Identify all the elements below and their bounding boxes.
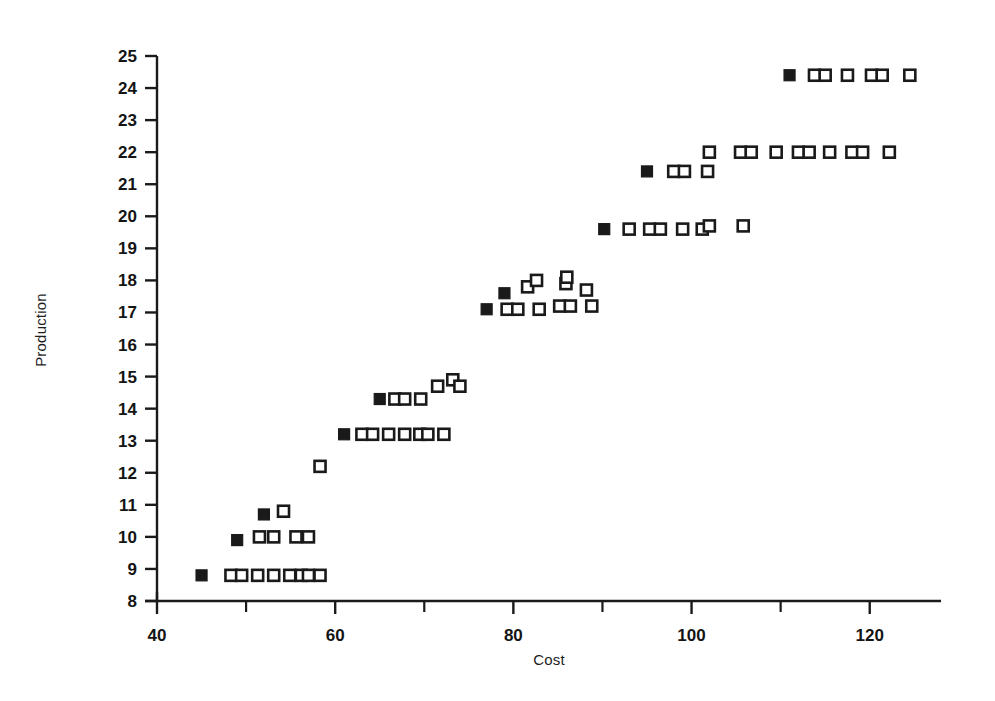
data-point-open [884,147,895,158]
data-point-open [655,224,666,235]
y-tick-label: 21 [118,175,137,194]
y-tick-label: 9 [128,560,137,579]
y-tick-label: 11 [119,496,137,515]
x-axis-tick-labels: 406080100120 [148,626,884,645]
data-point-open [454,381,465,392]
data-point-open [303,531,314,542]
y-tick-label: 19 [118,239,137,258]
y-tick-label: 14 [118,400,137,419]
data-point-filled [642,166,653,177]
data-point-open [290,531,301,542]
data-point-open [303,570,314,581]
x-axis-ticks [157,592,870,614]
data-point-filled [481,304,492,315]
data-point-open [793,147,804,158]
data-point-open [904,70,915,81]
y-axis-tick-labels: 8910111213141516171819202122232425 [118,47,137,611]
y-tick-label: 16 [118,336,137,355]
data-point-open [254,531,265,542]
data-point-open [624,224,635,235]
y-tick-label: 8 [128,592,137,611]
data-point-open [432,381,443,392]
data-points-open-square [225,70,915,581]
data-point-open [236,570,247,581]
y-tick-label: 12 [118,464,137,483]
y-axis-ticks [145,56,157,601]
data-point-open [581,285,592,296]
data-point-open [735,147,746,158]
data-point-open [367,429,378,440]
data-point-open [668,166,679,177]
data-point-open [278,506,289,517]
data-point-open [561,272,572,283]
data-point-filled [196,570,207,581]
data-point-open [824,147,835,158]
data-point-open [399,429,410,440]
y-axis-label: Production [32,293,49,367]
data-point-open [502,304,513,315]
data-point-open [284,570,295,581]
data-point-open [809,70,820,81]
y-tick-label: 22 [118,143,137,162]
data-point-open [225,570,236,581]
y-tick-label: 17 [118,303,137,322]
data-point-open [738,220,749,231]
data-point-open [644,224,655,235]
data-point-open [877,70,888,81]
data-point-filled [374,394,385,405]
data-point-filled [339,429,350,440]
data-point-open [586,301,597,312]
data-point-open [771,147,782,158]
data-point-open [857,147,868,158]
data-point-open [512,304,523,315]
data-point-open [415,394,426,405]
data-point-open [315,570,326,581]
data-point-open [438,429,449,440]
data-point-open [704,147,715,158]
y-tick-label: 25 [118,47,137,66]
data-point-open [422,429,433,440]
data-point-open [804,147,815,158]
data-point-open [679,166,690,177]
scatter-chart-figure: 8910111213141516171819202122232425 40608… [0,0,995,701]
scatter-plot-svg: 8910111213141516171819202122232425 40608… [0,0,995,701]
x-tick-label: 100 [677,626,705,645]
data-point-open [315,461,326,472]
data-point-open [746,147,757,158]
data-point-filled [232,535,243,546]
data-point-open [252,570,263,581]
y-tick-label: 15 [118,368,137,387]
x-tick-label: 60 [326,626,345,645]
data-point-open [356,429,367,440]
data-point-filled [258,509,269,520]
data-point-open [820,70,831,81]
x-axis-label: Cost [533,651,565,668]
data-point-open [842,70,853,81]
data-point-open [268,570,279,581]
y-tick-label: 23 [118,111,137,130]
data-point-open [677,224,688,235]
data-point-open [268,531,279,542]
data-point-open [702,166,713,177]
y-tick-label: 24 [118,79,137,98]
y-tick-label: 10 [118,528,137,547]
data-point-open [704,220,715,231]
data-point-open [554,301,565,312]
data-point-open [534,304,545,315]
data-point-open [531,275,542,286]
data-point-filled [599,224,610,235]
y-tick-label: 18 [118,271,137,290]
x-tick-label: 80 [504,626,523,645]
data-point-open [399,394,410,405]
y-tick-label: 13 [118,432,137,451]
data-point-filled [784,70,795,81]
data-point-open [866,70,877,81]
x-tick-label: 40 [148,626,167,645]
data-point-open [383,429,394,440]
data-point-open [565,301,576,312]
data-point-filled [499,288,510,299]
data-point-open [846,147,857,158]
x-tick-label: 120 [856,626,884,645]
y-tick-label: 20 [118,207,137,226]
